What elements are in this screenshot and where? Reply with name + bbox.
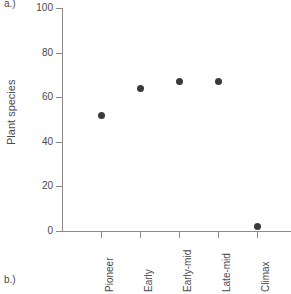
y-tick-80: 80 (0, 53, 62, 54)
data-point-early-mid (176, 78, 183, 85)
y-tick-mark (56, 53, 62, 54)
x-tick-label-early: Early (144, 269, 154, 292)
figure-panel-a: a.) 100 80 60 40 20 0 Plant spe (0, 0, 291, 294)
data-point-climax (254, 223, 261, 230)
y-tick-mark (56, 8, 62, 9)
y-tick-mark (56, 97, 62, 98)
y-tick-label: 80 (5, 48, 53, 58)
y-tick-label: 100 (5, 3, 53, 13)
y-tick-mark (56, 186, 62, 187)
y-axis-line (62, 8, 63, 232)
y-axis-title: Plant species (6, 80, 17, 145)
y-tick-mark (56, 231, 62, 232)
scatter-plot: 100 80 60 40 20 0 Plant species (0, 0, 291, 294)
data-point-pioneer (98, 112, 105, 119)
panel-b-label: b.) (4, 274, 16, 285)
data-point-late-mid (215, 78, 222, 85)
x-tick-mark-late-mid (218, 232, 219, 238)
x-tick-label-climax: Climax (261, 261, 271, 292)
x-tick-mark-early (140, 232, 141, 238)
y-tick-label: 0 (5, 226, 53, 236)
x-tick-mark-climax (257, 232, 258, 238)
x-tick-label-late-mid: Late-mid (222, 253, 232, 292)
y-tick-label: 20 (5, 181, 53, 191)
y-tick-mark (56, 142, 62, 143)
x-tick-label-pioneer: Pioneer (105, 258, 115, 292)
x-tick-label-early-mid: Early-mid (183, 250, 193, 292)
y-tick-100: 100 (0, 8, 62, 9)
data-point-early (137, 85, 144, 92)
x-tick-mark-early-mid (179, 232, 180, 238)
y-tick-20: 20 (0, 186, 62, 187)
x-tick-mark-pioneer (101, 232, 102, 238)
y-tick-0: 0 (0, 231, 62, 232)
